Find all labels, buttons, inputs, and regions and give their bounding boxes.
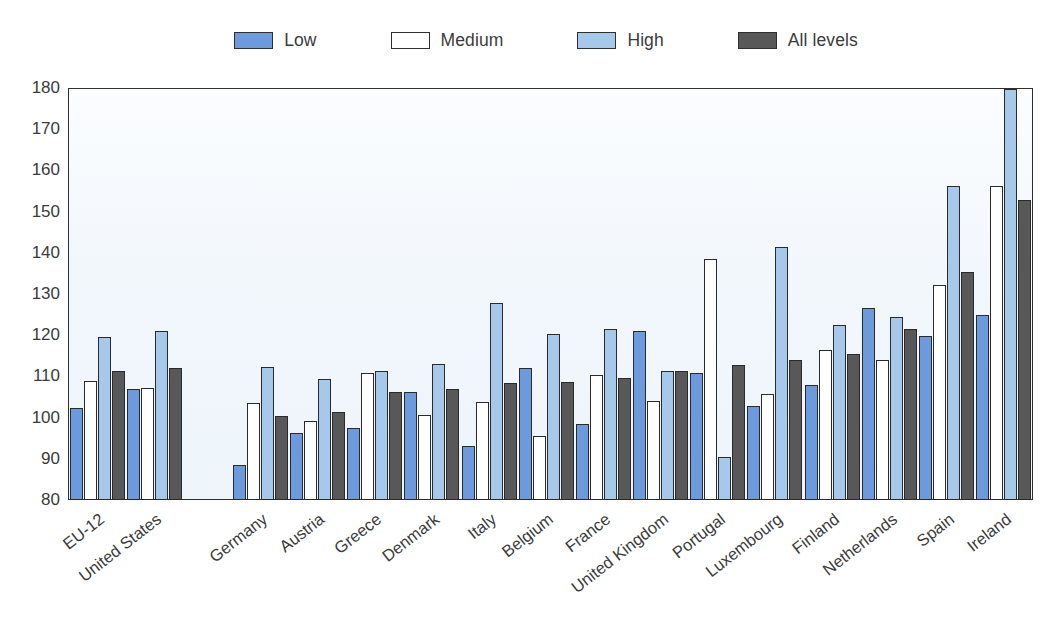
bar-low xyxy=(976,315,989,500)
bar-medium xyxy=(533,436,546,500)
bar-high xyxy=(155,331,168,500)
y-axis-tick-label: 120 xyxy=(0,325,60,345)
x-axis-label-slot: United States xyxy=(125,500,182,620)
bar-group xyxy=(289,88,346,500)
bar-medium xyxy=(876,360,889,500)
x-axis-label-slot: Spain xyxy=(918,500,975,620)
bar-all xyxy=(504,383,517,500)
x-axis-label-slot: Luxembourg xyxy=(747,500,804,620)
bar-low xyxy=(70,408,83,500)
bar-high xyxy=(775,247,788,500)
y-axis-tick-label: 100 xyxy=(0,408,60,428)
bar-group-spacer xyxy=(183,88,232,500)
y-axis-tick-label: 160 xyxy=(0,160,60,180)
bar-group xyxy=(69,88,126,500)
y-axis-tick-label: 130 xyxy=(0,284,60,304)
bar-group xyxy=(918,88,975,500)
legend-label: Low xyxy=(284,30,316,51)
bar-medium xyxy=(141,388,154,500)
bar-high xyxy=(432,364,445,500)
x-axis-label-slot: Belgium xyxy=(518,500,575,620)
x-axis-tick-label-text: Italy xyxy=(464,510,500,544)
bar-group xyxy=(575,88,632,500)
bar-chart: LowMediumHighAll levels 1801701601501401… xyxy=(0,0,1052,627)
bar-low xyxy=(862,308,875,500)
x-axis-tick-label-text: Spain xyxy=(913,510,958,551)
bar-high xyxy=(1004,89,1017,500)
legend-item-high: High xyxy=(577,30,663,51)
x-axis-label-slot: Austria xyxy=(288,500,345,620)
bar-group xyxy=(232,88,289,500)
bars-layer xyxy=(68,88,1033,500)
bar-all xyxy=(789,360,802,500)
bar-high xyxy=(375,371,388,500)
bar-group xyxy=(861,88,918,500)
bar-group xyxy=(126,88,183,500)
y-axis-tick-label: 150 xyxy=(0,202,60,222)
y-axis-tick-label: 180 xyxy=(0,78,60,98)
legend-swatch-low xyxy=(234,32,273,49)
bar-high xyxy=(490,303,503,500)
bar-group xyxy=(746,88,803,500)
bar-medium xyxy=(990,186,1003,500)
y-axis: 1801701601501401301201101009080 xyxy=(0,88,60,500)
bar-all xyxy=(561,382,574,500)
y-axis-tick-label: 90 xyxy=(0,449,60,469)
x-axis: EU-12United StatesGermanyAustriaGreeceDe… xyxy=(68,500,1033,620)
bar-high xyxy=(261,367,274,500)
bar-high xyxy=(98,337,111,500)
x-axis-tick-label-text: EU-12 xyxy=(59,510,108,554)
y-axis-tick-label: 80 xyxy=(0,490,60,510)
bar-group xyxy=(803,88,860,500)
bar-group xyxy=(461,88,518,500)
bar-all xyxy=(446,389,459,500)
bar-all xyxy=(169,368,182,500)
x-axis-label-slot: Netherlands xyxy=(861,500,918,620)
bar-high xyxy=(604,329,617,500)
bar-all xyxy=(618,378,631,500)
y-axis-tick-label: 110 xyxy=(0,366,60,386)
bar-medium xyxy=(247,403,260,500)
bar-all xyxy=(1018,200,1031,500)
bar-all xyxy=(389,392,402,500)
y-axis-tick-label: 140 xyxy=(0,243,60,263)
y-axis-tick-label: 170 xyxy=(0,119,60,139)
bar-all xyxy=(732,365,745,500)
legend-label: All levels xyxy=(788,30,858,51)
bar-low xyxy=(233,465,246,500)
legend-item-medium: Medium xyxy=(391,30,504,51)
bar-low xyxy=(519,368,532,500)
legend-swatch-high xyxy=(577,32,616,49)
bar-all xyxy=(675,371,688,500)
bar-group xyxy=(518,88,575,500)
legend-label: High xyxy=(627,30,663,51)
bar-medium xyxy=(361,373,374,500)
bar-all xyxy=(847,354,860,500)
chart-legend: LowMediumHighAll levels xyxy=(0,18,1052,62)
x-axis-label-slot: Germany xyxy=(231,500,288,620)
legend-item-low: Low xyxy=(234,30,316,51)
x-axis-label-slot: Ireland xyxy=(976,500,1033,620)
legend-swatch-all-levels xyxy=(738,32,777,49)
bar-group xyxy=(403,88,460,500)
bar-all xyxy=(904,329,917,500)
legend-label: Medium xyxy=(441,30,504,51)
bar-group xyxy=(632,88,689,500)
bar-high xyxy=(890,317,903,500)
bar-group xyxy=(346,88,403,500)
bar-medium xyxy=(84,381,97,500)
bar-low xyxy=(633,331,646,500)
bar-group xyxy=(975,88,1032,500)
legend-swatch-medium xyxy=(391,32,430,49)
bar-high xyxy=(661,371,674,500)
bar-high xyxy=(547,334,560,500)
x-axis-label-slot: Denmark xyxy=(403,500,460,620)
legend-item-all-levels: All levels xyxy=(738,30,858,51)
bar-all xyxy=(112,371,125,500)
bar-group xyxy=(689,88,746,500)
